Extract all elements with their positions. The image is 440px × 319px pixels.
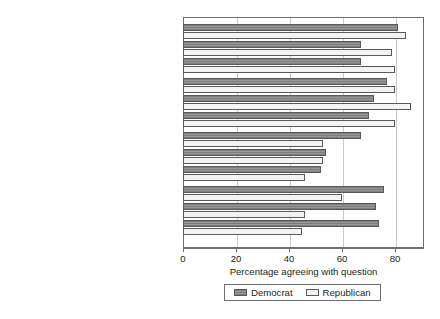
x-tick-80 [395, 248, 396, 252]
legend-item-democrat: Democrat [234, 287, 293, 298]
bar-democrat [183, 203, 376, 210]
x-tick-label-40: 40 [274, 253, 304, 264]
bar-republican [183, 66, 395, 73]
legend-label-republican: Republican [323, 287, 371, 298]
bar-democrat [183, 186, 384, 193]
bar-chart: UrbanSuburbanRuralTrade war with China O… [0, 0, 440, 319]
bar-republican [183, 86, 395, 93]
x-tick-label-60: 60 [327, 253, 357, 264]
bar-republican [183, 228, 302, 235]
x-tick-20 [236, 248, 237, 252]
bar-democrat [183, 95, 374, 102]
chart-legend: Democrat Republican [224, 284, 381, 301]
bar-democrat [183, 78, 387, 85]
bar-republican [183, 174, 305, 181]
bar-republican [183, 32, 406, 39]
bar-republican [183, 120, 395, 127]
bar-republican [183, 157, 323, 164]
bars-layer [183, 17, 424, 248]
x-axis-line [183, 248, 424, 249]
legend-swatch-republican-icon [306, 289, 319, 296]
bar-republican [183, 49, 392, 56]
bar-democrat [183, 41, 361, 48]
bar-republican [183, 103, 411, 110]
bar-democrat [183, 220, 379, 227]
bar-republican [183, 194, 342, 201]
x-tick-label-0: 0 [168, 253, 198, 264]
bar-republican [183, 140, 323, 147]
bar-democrat [183, 149, 326, 156]
legend-label-democrat: Democrat [251, 287, 293, 298]
bar-democrat [183, 112, 369, 119]
x-tick-label-20: 20 [221, 253, 251, 264]
x-tick-60 [342, 248, 343, 252]
bar-democrat [183, 58, 361, 65]
legend-swatch-democrat-icon [234, 289, 247, 296]
x-tick-0 [183, 248, 184, 252]
x-axis-title: Percentage agreeing with question [183, 266, 424, 277]
bar-republican [183, 211, 305, 218]
x-tick-label-80: 80 [380, 253, 410, 264]
bar-democrat [183, 24, 398, 31]
bar-democrat [183, 166, 321, 173]
category-axis-labels: UrbanSuburbanRuralTrade war with China O… [0, 0, 180, 319]
legend-item-republican: Republican [306, 287, 371, 298]
x-tick-40 [289, 248, 290, 252]
bar-democrat [183, 132, 361, 139]
